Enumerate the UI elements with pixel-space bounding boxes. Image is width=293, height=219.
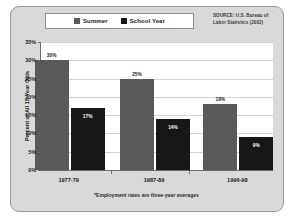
y-axis-tick-label: 20% bbox=[16, 94, 36, 100]
y-axis-tick-mark bbox=[38, 60, 41, 61]
x-axis-tick-label: 1987-89 bbox=[144, 177, 165, 183]
chart-legend: Summer School Year bbox=[45, 13, 194, 29]
x-axis-tick-mark bbox=[111, 171, 112, 174]
x-axis-ticks: 1977-791987-891996-98 bbox=[40, 172, 273, 186]
y-axis-tick-mark bbox=[38, 42, 41, 43]
y-axis-tick-label: 35% bbox=[16, 39, 36, 45]
y-axis-tick-mark bbox=[38, 97, 41, 98]
y-axis-tick-label: 15% bbox=[16, 112, 36, 118]
y-axis-tick-mark bbox=[38, 133, 41, 134]
legend-entry-school-year: School Year bbox=[121, 18, 165, 24]
legend-entry-summer: Summer bbox=[74, 18, 108, 24]
x-axis-tick-label: 1996-98 bbox=[227, 177, 248, 183]
y-axis-tick-mark bbox=[38, 152, 41, 153]
y-axis-tick-mark bbox=[38, 170, 41, 171]
y-axis-tick-mark bbox=[38, 115, 41, 116]
source-note-line-1: SOURCE: U.S. Bureau of bbox=[213, 13, 287, 20]
x-axis-tick-label: 1977-79 bbox=[58, 177, 79, 183]
y-axis-tick-label: 10% bbox=[16, 130, 36, 136]
source-note: SOURCE: U.S. Bureau of Labor Statistics … bbox=[213, 13, 287, 26]
chart-figure: Summer School Year SOURCE: U.S. Bureau o… bbox=[0, 0, 293, 219]
legend-label-summer: Summer bbox=[83, 18, 108, 24]
legend-swatch-school-year bbox=[121, 18, 127, 24]
x-axis-tick-mark bbox=[189, 171, 190, 174]
y-axis-tick-label: 25% bbox=[16, 76, 36, 82]
y-axis-ticks: 0%5%10%15%20%25%30%35% bbox=[40, 42, 272, 170]
legend-swatch-summer bbox=[74, 18, 80, 24]
chart-footnote: *Employment rates are three-year average… bbox=[0, 192, 293, 198]
y-axis-tick-label: 30% bbox=[16, 57, 36, 63]
y-axis-tick-label: 5% bbox=[16, 149, 36, 155]
legend-label-school-year: School Year bbox=[130, 18, 165, 24]
y-axis-tick-mark bbox=[38, 79, 41, 80]
y-axis-tick-label: 0% bbox=[16, 167, 36, 173]
source-note-line-2: Labor Statistics (2002) bbox=[213, 20, 287, 27]
